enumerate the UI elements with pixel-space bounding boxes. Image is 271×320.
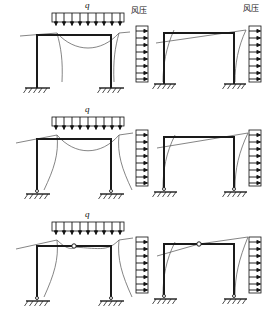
wind-pressure-strip-left <box>136 130 148 186</box>
panel-hinge-wind-load <box>130 209 271 320</box>
wind-pressure-strip-left <box>136 26 148 82</box>
uniform-load-box <box>52 222 124 235</box>
panel-fixed-vertical-load: q <box>0 0 136 107</box>
portal-frame-figure: q <box>0 0 271 320</box>
wind-pressure-strip-left <box>136 237 148 293</box>
frame-diagram-hinge-vertical <box>0 209 136 320</box>
support-left-pinned <box>25 190 51 200</box>
frame-outline <box>36 35 112 88</box>
load-arrows <box>54 117 121 130</box>
support-right-pinned <box>223 188 248 198</box>
wind-pressure-strip-right <box>249 130 261 186</box>
wind-pressure-strip-right <box>249 26 261 82</box>
frame-diagram-fixed-wind <box>130 0 271 107</box>
support-left-pinned <box>153 295 178 305</box>
frame-diagram-pinned-wind <box>130 104 271 211</box>
mid-span-hinge <box>197 242 201 246</box>
support-left-pinned <box>25 297 51 307</box>
support-right-pinned <box>99 190 125 200</box>
load-arrows <box>54 222 121 235</box>
panel-fixed-wind-load: 风压 风压 <box>130 0 271 107</box>
wind-label-left: 风压 <box>131 7 147 15</box>
support-right-fixed <box>223 84 247 89</box>
frame-outline <box>163 137 235 188</box>
frame-outline <box>163 244 235 295</box>
load-arrows <box>54 13 121 26</box>
deflection-curve <box>156 30 246 82</box>
panel-pinned-vertical-load: q <box>0 104 136 211</box>
support-right-pinned <box>223 295 248 305</box>
frame-diagram-hinge-wind <box>130 209 271 320</box>
frame-diagram-fixed-vertical <box>0 0 136 107</box>
load-label-q: q <box>85 105 90 114</box>
support-left-fixed <box>24 88 51 93</box>
deflection-curve <box>16 133 133 190</box>
wind-pressure-strip-right <box>249 237 261 293</box>
frame-diagram-pinned-vertical <box>0 104 136 211</box>
uniform-load-box <box>52 117 124 130</box>
load-label-q: q <box>85 210 90 219</box>
mid-span-hinge <box>72 244 76 248</box>
uniform-load-box <box>52 13 124 26</box>
panel-pinned-wind-load <box>130 104 271 211</box>
load-label-q: q <box>85 1 90 10</box>
panel-hinge-vertical-load: q <box>0 209 136 320</box>
support-right-pinned <box>99 297 125 307</box>
wind-label-right: 风压 <box>243 5 259 13</box>
support-left-fixed <box>153 84 177 89</box>
support-right-fixed <box>98 88 125 93</box>
support-left-pinned <box>153 188 178 198</box>
